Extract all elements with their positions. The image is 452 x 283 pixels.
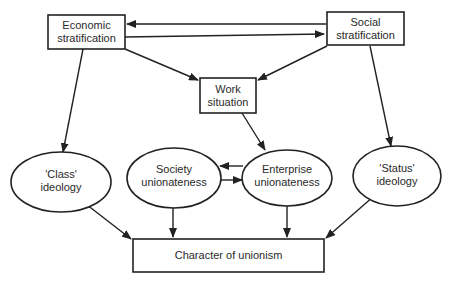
arrow-economic-to-work — [125, 49, 198, 80]
node-label: ideology — [41, 181, 82, 193]
node-label: Character of unionism — [175, 249, 283, 261]
arrow-status-to-character — [326, 196, 374, 238]
node-label: ideology — [377, 175, 418, 187]
edges — [63, 24, 391, 239]
arrow-social-to-work — [258, 46, 327, 80]
node-label: 'Class' — [45, 168, 77, 180]
arrow-social-to-status — [370, 46, 391, 146]
node-label: stratification — [57, 32, 116, 44]
node-label: Enterprise — [262, 163, 312, 175]
node-label: situation — [208, 96, 249, 108]
node-economic-stratification: Economic stratification — [48, 15, 125, 49]
node-character-of-unionism: Character of unionism — [133, 239, 324, 272]
node-social-stratification: Social stratification — [327, 12, 404, 45]
node-label: unionateness — [141, 176, 207, 188]
node-enterprise-unionateness: Enterprise unionateness — [242, 150, 332, 206]
node-label: Social — [351, 16, 381, 28]
node-label: Work — [215, 83, 241, 95]
node-label: unionateness — [254, 176, 320, 188]
arrow-economic-to-class — [63, 49, 83, 152]
arrow-economic-to-social — [125, 34, 324, 37]
diagram-canvas: Economic stratification Social stratific… — [0, 0, 452, 283]
node-work-situation: Work situation — [200, 78, 256, 113]
arrow-work-to-enterprise — [242, 113, 265, 150]
node-status-ideology: 'Status' ideology — [353, 146, 441, 206]
node-label: 'Status' — [379, 162, 414, 174]
node-label: stratification — [336, 29, 395, 41]
node-label: Society — [156, 163, 193, 175]
node-class-ideology: 'Class' ideology — [11, 152, 111, 212]
node-society-unionateness: Society unionateness — [127, 148, 221, 208]
node-label: Economic — [62, 19, 111, 31]
